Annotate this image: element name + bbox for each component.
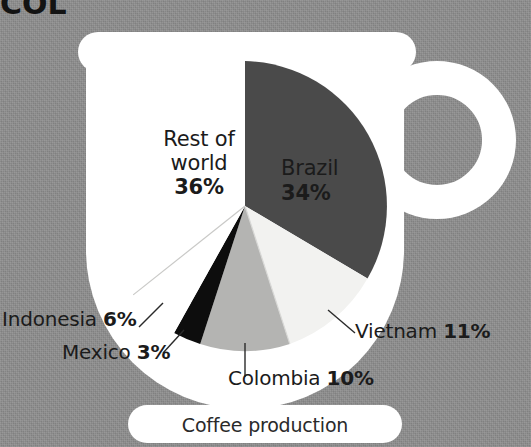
label-indonesia-name: Indonesia bbox=[2, 307, 97, 331]
label-rest-of-world-name-line2: world bbox=[171, 151, 228, 175]
label-mexico-percent: 3% bbox=[137, 340, 171, 364]
pie-chart bbox=[103, 61, 387, 351]
label-colombia-percent: 10% bbox=[327, 366, 374, 390]
label-mexico-name: Mexico bbox=[62, 340, 131, 364]
label-vietnam-name: Vietnam bbox=[355, 319, 437, 343]
label-colombia: Colombia 10% bbox=[228, 367, 374, 389]
label-colombia-name: Colombia bbox=[228, 366, 320, 390]
label-brazil-percent: 34% bbox=[281, 182, 338, 206]
label-indonesia: Indonesia 6% bbox=[2, 308, 137, 330]
label-vietnam-percent: 11% bbox=[443, 319, 490, 343]
label-indonesia-percent: 6% bbox=[103, 307, 137, 331]
infographic-canvas: COL bbox=[0, 0, 531, 447]
caption-label: Coffee production bbox=[140, 414, 390, 436]
label-mexico: Mexico 3% bbox=[62, 341, 170, 363]
label-rest-of-world-percent: 36% bbox=[138, 176, 260, 200]
label-brazil: Brazil 34% bbox=[281, 157, 338, 205]
label-rest-of-world: Rest of world 36% bbox=[138, 128, 260, 200]
label-vietnam: Vietnam 11% bbox=[355, 320, 490, 342]
label-rest-of-world-name-line1: Rest of bbox=[163, 127, 234, 151]
label-brazil-name: Brazil bbox=[281, 156, 338, 180]
